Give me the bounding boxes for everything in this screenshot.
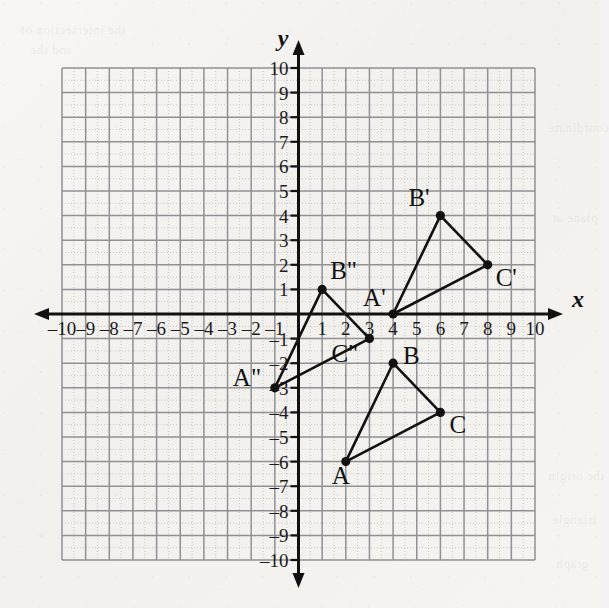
axis-tick-label: 2 [341, 318, 351, 339]
axis-tick-label: 4 [388, 318, 398, 339]
axis-tick-label: 10 [526, 318, 545, 339]
axis-tick-label: 8 [483, 318, 493, 339]
axis-tick-label: –7 [122, 318, 142, 339]
axis-tick-label: 5 [412, 318, 422, 339]
axis-tick-label: –4 [193, 318, 214, 339]
axis-tick-label: –3 [217, 318, 237, 339]
vertex-point [270, 383, 279, 392]
axis-tick-label: –6 [146, 318, 166, 339]
axis-tick-label: 1 [317, 318, 327, 339]
axis-tick-label: –2 [241, 318, 261, 339]
axes-with-arrows [34, 40, 563, 588]
axis-tick-label: 3 [279, 230, 289, 251]
axis-tick-label: 10 [270, 58, 289, 79]
axis-tick-label: –10 [259, 550, 289, 571]
axis-tick-label: –10 [47, 318, 77, 339]
axis-tick-label: –7 [269, 476, 289, 497]
axis-tick-label: 7 [279, 132, 289, 153]
vertex-point [389, 359, 398, 368]
axis-tick-label: 9 [507, 318, 517, 339]
axis-tick-label: 4 [279, 206, 289, 227]
vertex-point [436, 408, 445, 417]
vertex-label: A" [233, 364, 261, 391]
axis-tick-label: –8 [99, 318, 119, 339]
vertex-label: B" [330, 257, 357, 284]
axis-tick-label: –5 [269, 427, 289, 448]
axis-tick-label: –4 [269, 402, 290, 423]
axis-tick-label: 9 [279, 83, 289, 104]
axis-tick-label: 8 [279, 107, 289, 128]
vertex-point [318, 285, 327, 294]
axis-tick-label: –5 [170, 318, 190, 339]
axis-tick-label: 7 [459, 318, 469, 339]
axis-tick-label: –9 [75, 318, 95, 339]
axis-tick-label: –9 [269, 525, 289, 546]
axis-tick-label: 6 [436, 318, 446, 339]
vertex-label: B' [408, 184, 429, 211]
vertex-point [483, 260, 492, 269]
vertex-label: A [332, 462, 350, 489]
vertex-point [436, 211, 445, 220]
axis-tick-label: –8 [269, 501, 289, 522]
vertex-point [365, 334, 374, 343]
vertex-label: A' [363, 284, 386, 311]
axis-tick-label: 1 [279, 279, 289, 300]
axis-tick-label: –6 [269, 452, 289, 473]
vertex-point [389, 309, 398, 318]
vertex-label: C" [331, 340, 358, 367]
vertex-label: C' [496, 264, 517, 291]
vertex-label: C [449, 411, 466, 438]
y-axis-label: y [275, 25, 289, 51]
axis-tick-label: 2 [279, 255, 289, 276]
axis-tick-label: 5 [279, 181, 289, 202]
axis-tick-label: 6 [279, 156, 289, 177]
axis-tick-label: –1 [269, 329, 289, 350]
x-axis-label: x [571, 286, 584, 312]
vertex-label: B [403, 342, 420, 369]
